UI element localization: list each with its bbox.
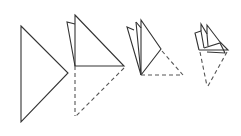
diagram-svg bbox=[0, 0, 241, 136]
step-2-folded-triangle bbox=[67, 15, 124, 116]
folding-diagram bbox=[0, 0, 241, 136]
step-3-folded-triangle bbox=[127, 20, 183, 75]
step-1-triangle bbox=[21, 26, 68, 122]
step-4-folded-triangle bbox=[195, 24, 228, 86]
